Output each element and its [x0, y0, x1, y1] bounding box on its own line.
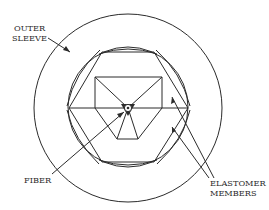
- outer-sleeve-label-line2: SLEEVE: [12, 33, 47, 43]
- outer-sleeve-label-line1: OUTER: [14, 23, 46, 33]
- upper-rectangle: [95, 77, 162, 108]
- hex-flat-lower-left-double: [67, 110, 99, 164]
- elastomer-leader-lower: [172, 127, 209, 178]
- fiber-cable-cross-section: OUTER SLEEVE FIBER ELASTOMER MEMBERS: [0, 0, 269, 210]
- diagonal-left: [95, 77, 128, 108]
- diagonal-right: [128, 77, 162, 108]
- fiber-core: [127, 107, 130, 110]
- elastomer-label-line2: MEMBERS: [210, 188, 257, 198]
- elastomer-label-line1: ELASTOMER: [210, 178, 266, 188]
- outer-sleeve-arrowhead: [63, 46, 70, 52]
- fiber-label: FIBER: [24, 175, 52, 185]
